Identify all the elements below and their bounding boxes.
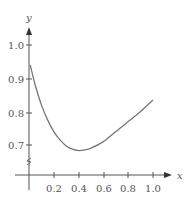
x-tick-label: 0.8: [120, 183, 136, 194]
y-axis-label: y: [25, 12, 32, 23]
x-tick-label: 1.0: [145, 183, 161, 194]
y-tick-label: 0.7: [8, 140, 24, 151]
x-tick-label: 0.6: [96, 183, 112, 194]
y-tick-label: 0.9: [8, 74, 24, 85]
y-axis-arrow-icon: [26, 27, 32, 35]
axis-break-icon: [27, 158, 31, 165]
data-curve: [30, 65, 153, 151]
x-axis-arrow-icon: [164, 172, 172, 178]
x-tick-label: 0.2: [46, 183, 62, 194]
x-tick-label: 0.4: [71, 183, 87, 194]
y-ticks: 1.0 0.9 0.8 0.7: [8, 40, 32, 151]
y-tick-label: 1.0: [8, 40, 24, 51]
y-tick-label: 0.8: [8, 108, 24, 119]
x-axis-label: x: [177, 170, 183, 181]
chart: x y 0.2 0.4 0.6 0.8 1.0 1.0 0.9 0.8 0.7: [0, 0, 190, 205]
